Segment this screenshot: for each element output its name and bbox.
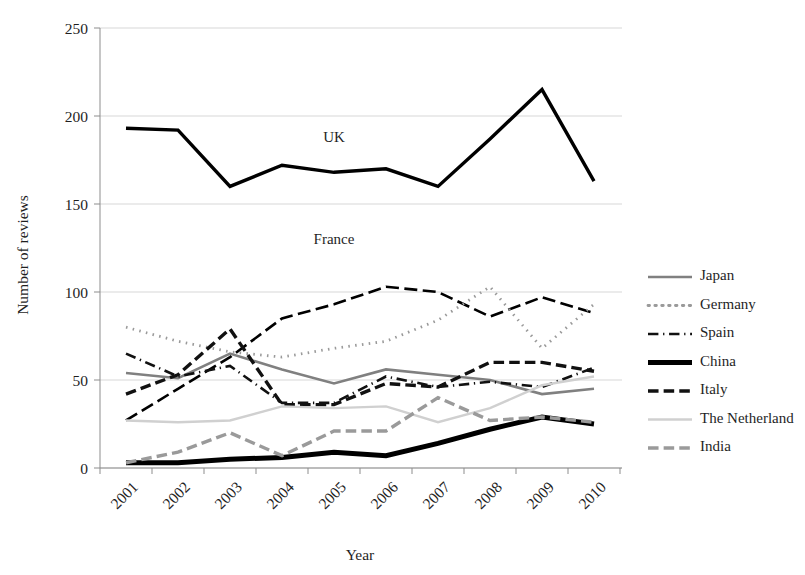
series-line-germany [126,287,594,357]
chart-annotation-france: France [314,231,355,247]
series-line-france [126,287,594,421]
x-tick-label-2002: 2002 [159,478,193,512]
y-tick-label-100: 100 [65,284,89,301]
series-line-china [126,417,594,463]
legend-item-japan[interactable]: Japan [648,267,735,283]
series-line-the-netherland [126,376,594,422]
x-tick-label-2005: 2005 [315,478,349,512]
legend-item-germany[interactable]: Germany [648,296,756,312]
legend-label: The Netherland [700,410,794,426]
legend-label: Japan [700,267,735,283]
legend-label: India [700,438,731,454]
y-tick-label-150: 150 [65,196,89,213]
legend-label: Germany [700,296,756,312]
x-tick-label-2001: 2001 [107,478,141,512]
x-axis-title: Year [346,546,375,563]
x-tick-label-2003: 2003 [211,478,245,512]
x-tick-label-2006: 2006 [367,478,401,512]
x-tick-label-2007: 2007 [419,478,453,512]
legend-label: Spain [700,324,735,340]
x-tick-label-2010: 2010 [575,478,609,512]
x-tick-label-2009: 2009 [523,478,557,512]
legend-item-italy[interactable]: Italy [648,381,728,397]
y-tick-label-50: 50 [73,372,89,389]
y-tick-label-250: 250 [65,20,89,37]
chart-annotation-uk: UK [323,129,345,145]
legend: JapanGermanySpainChinaItalyThe Netherlan… [648,267,794,454]
inline-annotations: UKFrance [314,129,355,247]
legend-item-china[interactable]: China [648,353,736,369]
series-line-uk [126,90,594,187]
x-tick-label-2004: 2004 [263,478,297,512]
x-axis-ticks: 2001200220032004200520062007200820092010 [100,468,620,512]
legend-item-the-netherland[interactable]: The Netherland [648,410,794,426]
legend-label: China [700,353,736,369]
y-tick-label-200: 200 [65,108,89,125]
legend-item-spain[interactable]: Spain [648,324,735,340]
legend-item-india[interactable]: India [648,438,731,454]
y-tick-label-0: 0 [80,460,88,477]
y-axis-title: Number of reviews [14,195,31,315]
data-series-group [126,90,594,463]
line-chart-figure: 050100150200250 200120022003200420052006… [0,0,805,575]
x-tick-label-2008: 2008 [471,478,505,512]
y-axis-ticks: 050100150200250 [65,20,100,477]
chart-container: 050100150200250 200120022003200420052006… [0,0,805,575]
legend-label: Italy [700,381,728,397]
